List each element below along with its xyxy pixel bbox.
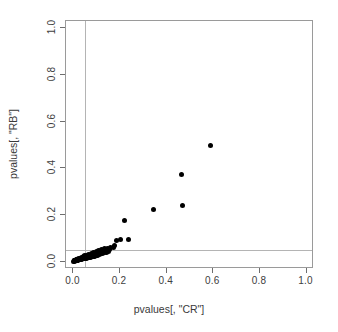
x-tick [166,268,167,273]
y-tick [60,27,65,28]
y-tick-label: 0.8 [46,67,57,82]
x-tick-label: 0.8 [252,275,267,286]
y-tick [60,214,65,215]
x-tick-label: 0.0 [65,275,80,286]
x-tick [119,268,120,273]
y-tick-label: 0.6 [46,113,57,128]
y-tick [60,167,65,168]
vertical-reference-line [85,21,86,267]
y-tick-label: 1.0 [46,20,57,35]
data-point [126,237,131,242]
x-tick-label: 1.0 [298,275,313,286]
y-tick [60,261,65,262]
y-tick-label: 0.2 [46,207,57,222]
scatter-plot-figure: 0.00.20.40.60.81.0 0.00.20.40.60.81.0 pv… [0,0,338,332]
x-tick [259,268,260,273]
data-point [122,218,127,223]
data-point [208,143,213,148]
y-tick-label: 0.4 [46,160,57,175]
x-tick [212,268,213,273]
x-tick-label: 0.4 [158,275,173,286]
plot-panel [65,20,313,268]
data-point [180,203,185,208]
x-tick-label: 0.6 [205,275,220,286]
x-tick-label: 0.2 [112,275,127,286]
data-point [151,207,156,212]
y-tick [60,121,65,122]
x-tick [72,268,73,273]
y-tick-label: 0.0 [46,253,57,268]
x-axis-label: pvalues[, "CR"] [0,303,338,315]
y-tick [60,74,65,75]
x-tick [306,268,307,273]
data-layer [66,21,312,267]
data-point [179,172,184,177]
y-axis-label: pvalues[, "RB"] [7,109,19,179]
